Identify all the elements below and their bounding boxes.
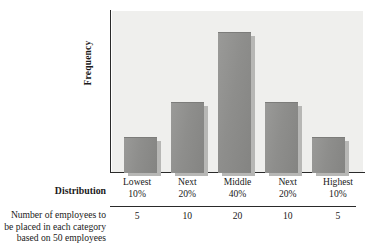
value-cell: 10: [162, 210, 212, 222]
category-cell: Lowest 10%: [112, 176, 162, 199]
category-line1: Middle: [224, 176, 252, 187]
y-axis-line: [110, 10, 111, 173]
bar-body: [265, 102, 298, 173]
category-cell: Middle 40%: [212, 176, 262, 199]
category-line2: 20%: [162, 188, 212, 200]
category-cell: Next 20%: [263, 176, 313, 199]
employees-note: Number of employees to be placed in each…: [0, 209, 106, 244]
category-line2: 10%: [313, 188, 363, 200]
bar-body: [124, 137, 157, 173]
bar-lowest-10: [124, 137, 157, 172]
category-line1: Lowest: [123, 176, 151, 187]
value-cell: 5: [112, 210, 162, 222]
category-line1: Next: [178, 176, 197, 187]
bar-next-20-lower: [171, 102, 204, 172]
category-line2: 20%: [263, 188, 313, 200]
bar-body: [312, 137, 345, 173]
bar-body: [218, 32, 251, 173]
category-line1: Next: [278, 176, 297, 187]
employees-note-line: be placed in each category: [0, 221, 106, 233]
category-line2: 10%: [112, 188, 162, 200]
value-cell: 5: [313, 210, 363, 222]
bar-highest-10: [312, 137, 345, 172]
category-cell: Highest 10%: [313, 176, 363, 199]
value-row: 5 10 20 10 5: [112, 210, 363, 222]
category-cell: Next 20%: [162, 176, 212, 199]
bar-body: [171, 102, 204, 173]
value-cell: 10: [263, 210, 313, 222]
value-cell: 20: [212, 210, 262, 222]
distribution-row-label: Distribution: [10, 185, 106, 196]
category-line1: Highest: [323, 176, 353, 187]
bar-next-20-upper: [265, 102, 298, 172]
category-line2: 40%: [212, 188, 262, 200]
employees-note-line: Number of employees to: [0, 209, 106, 221]
y-axis-title: Frequency: [83, 23, 93, 103]
bar-middle-40: [218, 32, 251, 172]
category-label-row: Lowest 10% Next 20% Middle 40% Next 20% …: [112, 176, 363, 199]
employees-note-line: based on 50 employees: [0, 232, 106, 244]
table-horizontal-rule: [110, 206, 356, 207]
